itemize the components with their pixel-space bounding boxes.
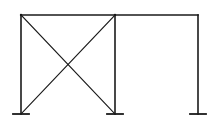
frame-drawing xyxy=(0,0,214,129)
top-beam xyxy=(20,14,198,16)
columns xyxy=(21,15,198,114)
structural-diagram xyxy=(0,0,214,129)
cross-bracing xyxy=(21,15,115,114)
